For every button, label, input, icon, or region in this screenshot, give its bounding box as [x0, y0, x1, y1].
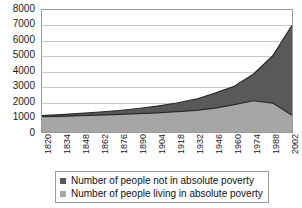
x-tick-label: 2002 — [291, 134, 300, 154]
x-axis-labels: 1820 1834 1848 1862 1876 1890 1904 1918 … — [41, 134, 293, 168]
y-tick-label: 0 — [29, 128, 35, 138]
legend-swatch-icon — [59, 190, 67, 198]
legend-swatch-icon — [59, 177, 67, 185]
poverty-area-chart: 8000 7000 6000 5000 4000 3000 2000 1000 … — [0, 0, 302, 208]
legend-item-in-poverty: Number of people living in absolute pove… — [59, 187, 263, 200]
y-tick-label: 5000 — [13, 50, 35, 60]
legend-item-not-in-poverty: Number of people not in absolute poverty — [59, 174, 263, 187]
y-tick-label: 6000 — [13, 35, 35, 45]
y-tick-label: 2000 — [13, 97, 35, 107]
plot-area — [41, 9, 293, 133]
y-tick-label: 8000 — [13, 4, 35, 14]
x-tick-label: 1848 — [82, 134, 91, 154]
x-tick-label: 1876 — [120, 134, 129, 154]
y-tick-label: 7000 — [13, 19, 35, 29]
y-axis-labels: 8000 7000 6000 5000 4000 3000 2000 1000 … — [0, 0, 38, 140]
x-tick-label: 1862 — [101, 134, 110, 154]
x-tick-label: 1960 — [234, 134, 243, 154]
chart-legend: Number of people not in absolute poverty… — [55, 171, 269, 203]
stacked-area-series — [42, 10, 292, 132]
y-tick-label: 1000 — [13, 112, 35, 122]
x-tick-label: 1918 — [177, 134, 186, 154]
x-tick-label: 1946 — [215, 134, 224, 154]
x-tick-label: 1988 — [272, 134, 281, 154]
x-tick-label: 1974 — [253, 134, 262, 154]
x-tick-label: 1904 — [158, 134, 167, 154]
y-tick-label: 3000 — [13, 81, 35, 91]
x-tick-label: 1820 — [44, 134, 53, 154]
x-tick-label: 1932 — [196, 134, 205, 154]
legend-label: Number of people not in absolute poverty — [71, 175, 254, 186]
x-tick-label: 1834 — [63, 134, 72, 154]
x-tick-label: 1890 — [139, 134, 148, 154]
y-tick-label: 4000 — [13, 66, 35, 76]
legend-label: Number of people living in absolute pove… — [71, 188, 263, 199]
